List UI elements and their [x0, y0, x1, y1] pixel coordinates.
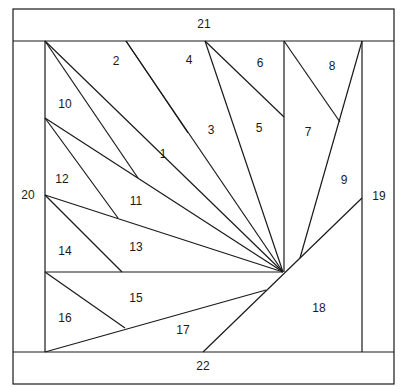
piece-label-17: 17	[176, 323, 190, 337]
piece-label-21: 21	[197, 17, 211, 31]
piece-label-22: 22	[196, 359, 210, 373]
piece-label-4: 4	[186, 53, 193, 67]
piece-label-13: 13	[129, 240, 143, 254]
seam-line	[45, 195, 283, 272]
seam-line	[284, 41, 340, 122]
piece-label-20: 20	[21, 188, 35, 202]
seam-line	[205, 41, 283, 272]
seam-line	[126, 41, 188, 133]
seam-line	[203, 198, 362, 352]
piece-label-10: 10	[58, 97, 72, 111]
piece-label-7: 7	[305, 125, 312, 139]
seam-line	[45, 272, 125, 328]
piece-label-2: 2	[113, 54, 120, 68]
piece-label-15: 15	[129, 291, 143, 305]
piece-label-11: 11	[130, 194, 143, 208]
seam-line	[45, 290, 266, 352]
piece-label-8: 8	[329, 59, 336, 73]
piece-label-1: 1	[160, 147, 167, 161]
piece-label-19: 19	[372, 189, 386, 203]
seam-line	[45, 195, 122, 272]
seam-line	[300, 41, 362, 258]
piece-label-3: 3	[208, 123, 215, 137]
piece-label-5: 5	[256, 121, 263, 135]
seam-line	[45, 118, 283, 272]
piece-label-9: 9	[341, 173, 348, 187]
piece-label-16: 16	[58, 311, 72, 325]
seam-line	[205, 41, 284, 117]
piece-label-14: 14	[58, 244, 72, 258]
quilt-block-diagram: 1 2 3 4 5 6 7 8 9 10 11 12 13 14 15 16 1…	[0, 0, 408, 387]
piece-label-18: 18	[312, 301, 326, 315]
piece-label-12: 12	[55, 172, 69, 186]
piece-label-6: 6	[257, 56, 264, 70]
